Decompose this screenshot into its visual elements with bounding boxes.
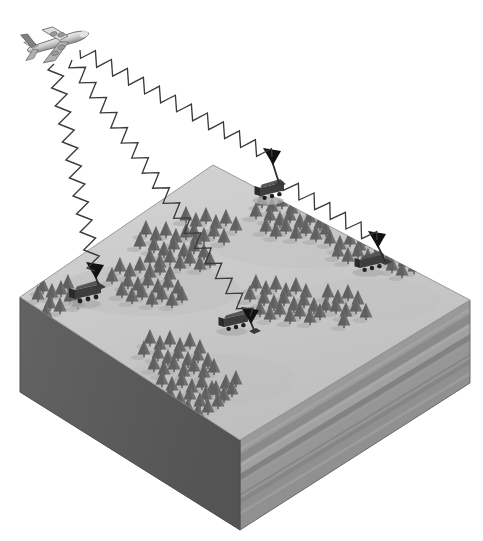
- tree: [401, 236, 421, 256]
- ground-station-north-hotspot[interactable]: [252, 150, 296, 208]
- ground-station-centre-hotspot[interactable]: [220, 308, 270, 348]
- tree-shadow: [325, 257, 340, 262]
- tree-canopy: [408, 236, 421, 251]
- ground-station-east-hotspot[interactable]: [352, 234, 402, 278]
- tree-canopy: [306, 200, 319, 215]
- tree-shadow: [317, 244, 332, 249]
- tree-canopy-shade: [418, 242, 427, 257]
- tree-shadow: [353, 318, 368, 323]
- tree-shadow: [401, 251, 416, 256]
- tree-shadow: [411, 257, 426, 262]
- tree-shadow: [139, 305, 154, 310]
- tree-trunk: [405, 257, 406, 261]
- tree-shadow: [277, 322, 292, 327]
- tree-trunk: [423, 255, 424, 259]
- tree-shadow: [253, 232, 268, 237]
- tree-shadow: [159, 306, 174, 311]
- tree-canopy: [418, 242, 431, 257]
- tree-shadow: [187, 270, 202, 275]
- tree-shadow: [243, 217, 258, 222]
- tree-shadow: [335, 262, 350, 267]
- tree-canopy-shade: [296, 194, 305, 209]
- tree-shadow: [119, 302, 134, 307]
- tree-canopy-shade: [408, 236, 417, 251]
- tree-shadow: [211, 243, 226, 248]
- figure-canvas: mobile receiver station, westmobile rece…: [0, 0, 483, 541]
- tree-trunk: [413, 249, 414, 253]
- tree: [411, 242, 431, 262]
- ground-station-west-hotspot[interactable]: [72, 262, 116, 310]
- tree-canopy-shade: [306, 200, 315, 215]
- tree-shadow: [131, 355, 146, 360]
- tree-shadow: [303, 240, 318, 245]
- tree-trunk: [301, 207, 302, 211]
- tree-shadow: [331, 326, 346, 331]
- tree-shadow: [263, 237, 278, 242]
- tree-shadow: [297, 323, 312, 328]
- tree-shadow: [283, 239, 298, 244]
- signal-beam-1: [80, 50, 272, 157]
- tree-shadow: [127, 247, 142, 252]
- transmitter-aircraft-hotspot[interactable]: [22, 20, 92, 66]
- tree-shadow: [141, 370, 156, 375]
